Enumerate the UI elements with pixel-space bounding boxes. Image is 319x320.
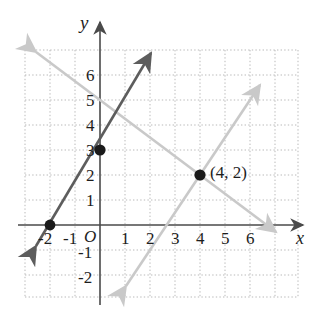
y-tick-label-neg1: -1 (78, 244, 92, 261)
x-tick-label-6: 6 (246, 230, 255, 247)
coordinate-plane-svg (0, 0, 319, 320)
x-tick-label-3: 3 (171, 230, 180, 247)
y-tick-label-neg2: -2 (78, 269, 92, 286)
point-4-2-label: (4, 2) (210, 164, 247, 181)
y-tick-label-6: 6 (86, 67, 95, 84)
y-tick-label-1: 1 (86, 192, 95, 209)
x-tick-label-2: 2 (146, 230, 155, 247)
y-tick-label-3: 3 (86, 142, 95, 159)
light-line-descending (36, 52, 276, 232)
y-axis-label: y (80, 12, 88, 34)
x-tick-label-neg1: -1 (63, 230, 77, 247)
x-tick-label-1: 1 (121, 230, 130, 247)
point-marker (194, 169, 205, 180)
light-line-ascending (126, 85, 260, 286)
y-tick-label-2: 2 (86, 167, 95, 184)
grid-lines (25, 50, 298, 297)
x-tick-label-neg2: -2 (38, 230, 52, 247)
graph-figure: y x O 1 2 3 4 5 6 -2 -1 1 2 3 4 5 6 -1 -… (0, 0, 319, 320)
x-tick-label-5: 5 (221, 230, 230, 247)
x-axis-label: x (296, 228, 304, 249)
point-marker (94, 144, 105, 155)
y-tick-label-4: 4 (86, 117, 95, 134)
y-tick-label-5: 5 (86, 92, 95, 109)
x-tick-label-4: 4 (196, 230, 205, 247)
axes (18, 22, 303, 305)
